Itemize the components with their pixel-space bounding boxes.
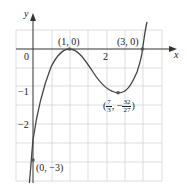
y-axis-label: y (24, 9, 28, 19)
label-local-min: (73, −3227) (103, 99, 135, 114)
label-point-0-m3: (0, −3) (36, 163, 63, 173)
label-point-3-0: (3, 0) (117, 37, 139, 47)
point-local-min (116, 91, 120, 95)
label-point-1-0: (1, 0) (58, 37, 80, 47)
x-axis-label: x (174, 50, 178, 60)
y-axis-arrow-icon (30, 13, 36, 21)
origin-label: 0 (24, 52, 29, 62)
point-3-0 (141, 47, 145, 51)
y-tick-m1: −1 (18, 87, 29, 97)
x-tick-2: 2 (103, 52, 108, 62)
point-1-0 (68, 47, 72, 51)
point-0-m3 (31, 158, 35, 162)
axes (16, 20, 172, 183)
grid (16, 30, 162, 181)
y-tick-m2: −2 (18, 120, 29, 130)
